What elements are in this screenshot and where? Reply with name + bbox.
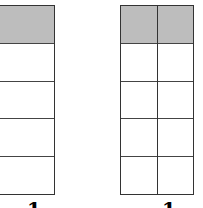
row-divider [0, 118, 54, 119]
shaded-row [0, 6, 54, 43]
column-divider [157, 6, 158, 194]
row-divider [0, 43, 54, 44]
row-divider [0, 156, 54, 157]
left-label: 1 [27, 200, 41, 208]
row-divider [0, 81, 54, 82]
right-fraction-bar [120, 5, 194, 195]
right-label: 1 [162, 200, 176, 208]
left-fraction-bar [0, 5, 55, 195]
